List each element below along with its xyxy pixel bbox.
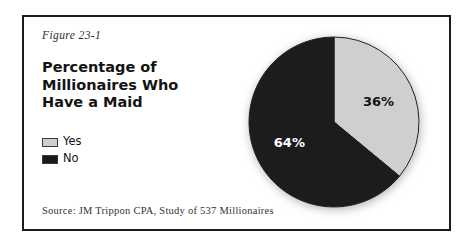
chart-title-line-1: Percentage of <box>42 59 242 77</box>
legend-label-yes: Yes <box>63 136 82 148</box>
pie-chart: 36% 64% <box>242 29 438 219</box>
pie-slice-label-no: 64% <box>274 135 305 150</box>
pie-chart-svg: 36% 64% <box>242 29 438 219</box>
figure-number-label: Figure 23-1 <box>42 29 101 41</box>
pie-slices <box>249 37 419 207</box>
figure-frame: Figure 23-1 Percentage of Millionaires W… <box>22 15 451 231</box>
legend-swatch-no-icon <box>42 155 58 164</box>
chart-legend: Yes No <box>42 135 82 169</box>
legend-item-yes[interactable]: Yes <box>42 135 82 149</box>
legend-label-no: No <box>63 153 79 165</box>
legend-item-no[interactable]: No <box>42 152 82 166</box>
source-note: Source: JM Trippon CPA, Study of 537 Mil… <box>42 205 274 216</box>
chart-title-line-3: Have a Maid <box>42 94 242 112</box>
pie-slice-label-yes: 36% <box>363 94 394 109</box>
chart-title-line-2: Millionaires Who <box>42 77 242 95</box>
legend-swatch-yes-icon <box>42 138 58 147</box>
chart-title: Percentage of Millionaires Who Have a Ma… <box>42 59 242 112</box>
